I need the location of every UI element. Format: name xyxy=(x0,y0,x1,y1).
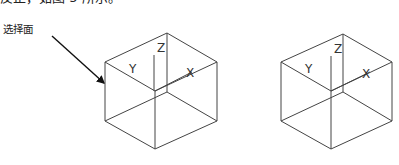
left-cube-y-label: Y xyxy=(128,62,137,76)
right-cube-y-label: Y xyxy=(304,62,313,76)
left-cube-z-label: Z xyxy=(157,41,165,55)
left-cube-x-label: X xyxy=(186,66,194,80)
callout-arrow xyxy=(52,36,104,83)
right-cube-x-label: X xyxy=(362,67,370,81)
figure-canvas: Z Y X Z Y X xyxy=(0,0,399,165)
right-cube-z-label: Z xyxy=(334,42,342,56)
